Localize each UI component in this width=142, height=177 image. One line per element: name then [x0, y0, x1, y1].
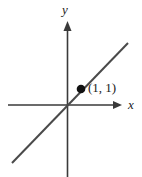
- point-marker: [77, 85, 86, 94]
- plotted-line-y-equals-x: [12, 43, 128, 163]
- y-axis-arrowhead: [64, 21, 72, 31]
- graph-canvas: [0, 0, 142, 177]
- point-coordinate-label: (1, 1): [88, 81, 116, 94]
- coordinate-plane-figure: y x (1, 1): [0, 0, 142, 177]
- x-axis-label: x: [128, 98, 134, 111]
- y-axis-label: y: [62, 3, 68, 16]
- x-axis-arrowhead: [113, 101, 122, 109]
